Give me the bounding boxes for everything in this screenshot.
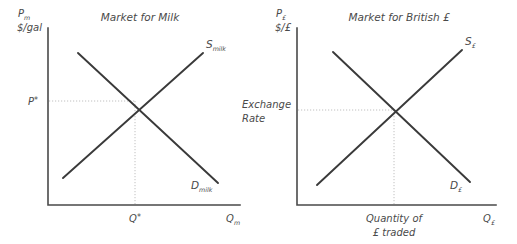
milk-demand-curve [78, 53, 218, 183]
pound-supply-curve [317, 50, 462, 185]
milk-panel-title: Market for Milk [101, 11, 180, 23]
milk-y-axis-subscript: m [24, 14, 30, 21]
pound-demand-label-subscript: £ [458, 186, 463, 193]
pound-demand-label-symbol: D [450, 179, 458, 191]
pound-x-axis-label: Q£ [483, 213, 496, 226]
milk-axes [48, 28, 240, 205]
pound-supply-label-subscript: £ [472, 42, 477, 49]
milk-y-axis-units: $/gal [17, 22, 42, 33]
milk-x-axis-label: Qm [226, 213, 240, 226]
pound-supply-label: S£ [465, 35, 477, 49]
pound-x-axis-caption-line1: Quantity of [366, 213, 424, 224]
pound-x-axis-subscript: £ [491, 219, 496, 226]
pound-x-axis-caption-line2: £ traded [373, 227, 416, 238]
milk-supply-label-subscript: milk [213, 45, 227, 52]
pound-demand-label: D£ [450, 179, 463, 193]
milk-x-axis-subscript: m [234, 219, 240, 226]
panel-milk: Market for Milk Pm $/gal Smilk Dmilk P* … [17, 8, 240, 226]
pound-y-axis-symbol: P£ [276, 8, 287, 21]
milk-demand-label-symbol: D [191, 179, 199, 191]
supply-demand-figure: Market for Milk Pm $/gal Smilk Dmilk P* … [0, 0, 517, 244]
milk-supply-label: Smilk [206, 38, 226, 52]
pound-exchange-rate-label-line2: Rate [242, 113, 265, 124]
milk-equilibrium-price-star: * [34, 96, 38, 105]
milk-demand-label-subscript: milk [199, 186, 213, 193]
milk-demand-label: Dmilk [191, 179, 213, 193]
pound-x-axis-symbol: Q [483, 213, 491, 224]
pound-panel-title: Market for British £ [348, 11, 450, 23]
milk-x-axis-symbol: Q [226, 213, 234, 224]
milk-equilibrium-quantity-star: * [137, 213, 141, 222]
milk-equilibrium-quantity-label: Q* [129, 213, 141, 224]
milk-supply-curve [63, 53, 203, 178]
pound-y-axis-subscript: £ [282, 14, 287, 21]
panel-pound: Market for British £ P£ $/£ S£ D£ Exchan… [242, 8, 496, 238]
milk-equilibrium-quantity-symbol: Q [129, 213, 137, 224]
milk-equilibrium-price-label: P* [28, 96, 38, 107]
milk-y-axis-symbol: Pm [18, 8, 30, 21]
pound-demand-curve [333, 52, 470, 182]
pound-y-axis-units: $/£ [275, 22, 292, 33]
pound-exchange-rate-label-line1: Exchange [242, 99, 291, 110]
